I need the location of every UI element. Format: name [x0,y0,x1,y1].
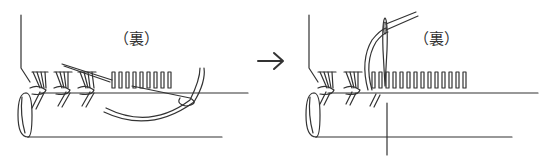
stitch-cluster-1 [30,72,48,109]
stitch-cluster-3 [370,94,380,107]
hem-roll [18,93,28,137]
unstitched-slots [372,72,466,88]
fabric-edge [21,15,30,82]
diagram-canvas: （裏） [0,0,555,163]
arrow-icon [258,53,283,69]
stitch-cluster-2 [344,72,362,105]
unstitched-slots [112,72,171,88]
stitch-cluster-1 [318,72,336,105]
back-side-label-2: （裏） [414,30,459,48]
stitch-cluster-3 [78,72,96,107]
hem-roll [306,93,316,137]
stitch-cluster-2 [54,72,72,107]
fabric-edge [309,15,318,82]
back-side-label-1: （裏） [114,30,159,48]
thread-top [386,12,416,24]
